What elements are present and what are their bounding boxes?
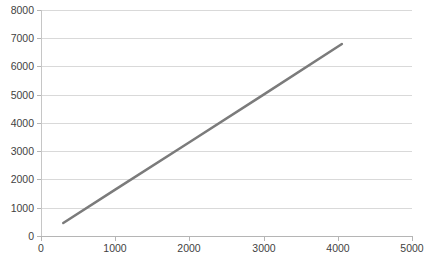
series-line	[63, 44, 342, 223]
series-layer	[0, 0, 430, 266]
line-chart: 8000 7000 6000 5000 4000 3000 2000 1000 …	[0, 0, 430, 266]
